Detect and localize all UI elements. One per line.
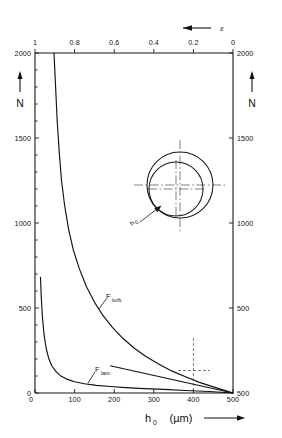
curve-label-f-turb-main: F (106, 292, 111, 301)
bottom-axis-title-group: h 0 (µm) (145, 412, 245, 426)
top-tick-label: 0.2 (188, 38, 198, 47)
top-axis: 1 0.8 0.6 0.4 0.2 0 (33, 38, 235, 53)
bottom-axis-label-unit: (µm) (170, 412, 193, 424)
left-tick-label: 1500 (15, 134, 31, 143)
left-axis-arrow-head (18, 71, 23, 79)
f-lam-leader-line (88, 372, 95, 383)
figure-container: 1 0.8 0.6 0.4 0.2 0 ε (0, 0, 282, 438)
top-tick-label: 1 (33, 38, 37, 47)
right-tick-label: 1500 (237, 134, 253, 143)
curve-label-f-lam-group: F lam. (88, 365, 111, 383)
bottom-tick-label: 500 (227, 395, 239, 404)
bottom-tick-label: 100 (68, 395, 80, 404)
left-axis-label: N (16, 97, 24, 109)
top-tick-label: 0.6 (109, 38, 119, 47)
left-tick-label: 2000 (15, 49, 31, 58)
curve-label-f-turb-sub: turb. (112, 297, 123, 303)
epsilon-axis-label: ε (220, 23, 224, 33)
curve-f-turb (54, 53, 233, 393)
bottom-tick-label: 300 (148, 395, 160, 404)
curve-label-f-lam-main: F (95, 365, 100, 374)
chart-svg: 1 0.8 0.6 0.4 0.2 0 ε (0, 0, 282, 438)
epsilon-direction-arrow: ε (183, 23, 224, 33)
top-tick-label: 0 (231, 38, 235, 47)
right-tick-label: 2000 (237, 49, 253, 58)
curve-label-f-lam-sub: lam. (101, 370, 111, 376)
left-tick-label: 1000 (15, 219, 31, 228)
bottom-axis-label-sub: 0 (153, 419, 157, 426)
bottom-tick-label: 0 (29, 395, 33, 404)
right-axis-name-group: N (248, 71, 256, 109)
curve-label-f-turb-group: F turb. (99, 292, 123, 309)
right-tick-label: 1000 (237, 219, 253, 228)
bottom-tick-label: 200 (108, 395, 120, 404)
f-turb-leader-line (99, 299, 106, 309)
curve-f-lam (41, 277, 234, 393)
right-axis-arrow-head (250, 71, 255, 79)
top-tick-label: 0.8 (69, 38, 79, 47)
right-tick-label: 500 (237, 304, 249, 313)
left-axis-name-group: N (16, 71, 24, 109)
left-tick-label: 500 (19, 304, 31, 313)
bottom-axis-label-main: h (145, 412, 151, 424)
top-tick-label: 0.4 (149, 38, 159, 47)
bottom-tick-label: 400 (187, 395, 199, 404)
right-axis-label: N (248, 97, 256, 109)
inset-bearing-diagram: h 0 (128, 140, 226, 232)
epsilon-arrow-head (183, 25, 192, 31)
bottom-axis-arrow-head (237, 415, 245, 420)
reference-straight-line (110, 366, 233, 393)
inset-h0-label-group: h 0 (128, 217, 140, 229)
